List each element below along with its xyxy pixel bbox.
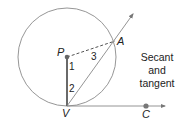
label-p: P (57, 46, 65, 58)
angle-2-label: 2 (69, 83, 75, 94)
angle-1-label: 1 (69, 61, 75, 72)
caption-line-1: Secant (141, 51, 174, 63)
point-p (65, 55, 70, 60)
label-c: C (142, 108, 150, 120)
secant-tangent-diagram: P A V C 1 2 3 Secant and tangent (0, 0, 184, 137)
caption-line-3: tangent (139, 77, 174, 89)
label-v: V (62, 107, 71, 119)
caption-line-2: and (148, 64, 166, 76)
angle-3-label: 3 (91, 51, 97, 62)
label-a: A (116, 35, 124, 47)
secant-ray-va (67, 14, 133, 106)
